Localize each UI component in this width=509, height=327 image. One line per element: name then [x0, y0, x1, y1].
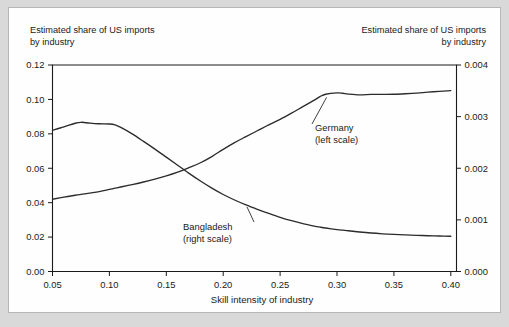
right-tick-label: 0.000 [465, 266, 488, 277]
x-tick-label: 0.05 [43, 279, 61, 290]
right-tick-label: 0.003 [465, 111, 488, 122]
left-tick-label: 0.08 [26, 128, 44, 139]
right-tick-label: 0.002 [465, 163, 488, 174]
right-tick-label: 0.004 [465, 59, 488, 70]
germany-leader-line [312, 97, 327, 124]
right-tick-label: 0.001 [465, 214, 488, 225]
left-axis-ticks [48, 65, 53, 272]
left-tick-label: 0.02 [26, 231, 44, 242]
x-tick-label: 0.35 [385, 279, 403, 290]
x-axis-title: Skill intensity of industry [211, 294, 314, 305]
left-tick-label: 0.10 [26, 94, 44, 105]
x-axis-ticks [53, 272, 451, 277]
plot-frame [53, 65, 457, 272]
left-tick-label: 0.12 [26, 59, 44, 70]
annotation-bangladesh: Bangladesh (right scale) [183, 207, 254, 244]
x-tick-label: 0.40 [442, 279, 460, 290]
left-tick-label: 0.00 [26, 266, 44, 277]
bangladesh-annotation-line1: Bangladesh [183, 221, 233, 232]
germany-annotation-line2: (left scale) [315, 134, 358, 145]
right-axis-ticks [457, 65, 462, 272]
x-axis-tick-labels: 0.050.100.150.200.250.300.350.40 [43, 279, 460, 290]
bangladesh-leader-line [247, 207, 254, 222]
series-line-germany [53, 91, 451, 200]
right-axis-tick-labels: 0.0000.0010.0020.0030.004 [465, 59, 488, 277]
annotation-germany: Germany (left scale) [312, 97, 358, 145]
x-tick-label: 0.10 [100, 279, 118, 290]
left-axis-tick-labels: 0.000.020.040.060.080.100.12 [26, 59, 44, 277]
chart-plot-area: 0.000.020.040.060.080.100.12 0.0000.0010… [9, 8, 501, 313]
x-tick-label: 0.20 [214, 279, 232, 290]
bangladesh-annotation-line2: (right scale) [183, 233, 232, 244]
figure-inner-canvas: Estimated share of US imports by industr… [9, 8, 500, 312]
x-tick-label: 0.15 [157, 279, 175, 290]
series-line-bangladesh [53, 122, 451, 236]
germany-annotation-line1: Germany [315, 122, 354, 133]
x-tick-label: 0.30 [328, 279, 346, 290]
figure-panel: Estimated share of US imports by industr… [8, 7, 501, 313]
x-tick-label: 0.25 [271, 279, 289, 290]
plot-frame-path [53, 65, 457, 272]
figure-root: Estimated share of US imports by industr… [0, 0, 509, 327]
series-group [53, 91, 451, 237]
left-tick-label: 0.04 [26, 197, 44, 208]
left-tick-label: 0.06 [26, 163, 44, 174]
